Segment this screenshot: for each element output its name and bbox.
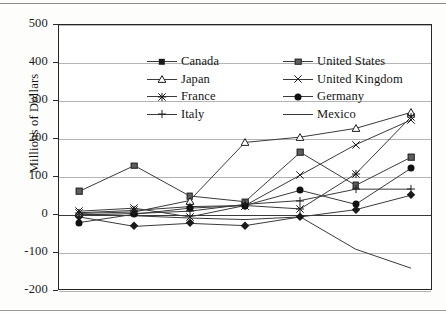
data-point-canada-1985 <box>185 219 194 228</box>
data-point-france-1995 <box>296 204 305 213</box>
data-point-united-states-2002 <box>408 154 415 161</box>
data-point-italy-1980 <box>130 209 139 218</box>
data-point-france-1990 <box>241 201 250 210</box>
data-point-italy-2002 <box>407 185 416 194</box>
legend-label: United Kingdom <box>317 72 403 87</box>
data-point-canada-2002 <box>406 191 415 200</box>
data-point-italy-1995 <box>296 196 305 205</box>
y-tick--200 <box>53 290 58 291</box>
data-point-france-1985 <box>185 202 194 211</box>
legend-label: Mexico <box>317 107 356 122</box>
scan-rule-top <box>0 3 446 4</box>
data-point-germany-1970 <box>76 219 83 226</box>
data-point-united-states-1985 <box>186 193 193 200</box>
legend-label: United States <box>317 54 385 69</box>
data-point-japan-1970 <box>75 209 84 217</box>
data-point-italy-1970 <box>75 211 84 220</box>
data-point-united-states-1995 <box>297 149 304 156</box>
data-point-united-kingdom-2002 <box>407 116 416 125</box>
data-point-united-kingdom-1990 <box>241 201 250 210</box>
data-point-canada-1995 <box>296 212 305 221</box>
data-point-france-2000 <box>351 169 360 178</box>
legend-label: Japan <box>181 72 210 87</box>
data-point-united-kingdom-2000 <box>351 140 360 149</box>
data-point-japan-1995 <box>296 133 305 141</box>
data-point-canada-1990 <box>240 221 249 230</box>
y-tick-label--100: -100 <box>14 244 48 259</box>
data-point-germany-2000 <box>352 201 359 208</box>
data-point-canada-1970 <box>74 212 83 221</box>
gridline--200 <box>59 291 431 292</box>
legend-label: Germany <box>317 89 364 104</box>
data-point-italy-1990 <box>241 200 250 209</box>
chart-page: Millions of Dollars 5004003002001000-100… <box>0 0 446 313</box>
legend-label: Canada <box>181 54 219 69</box>
data-point-france-2002 <box>407 112 416 121</box>
data-point-japan-1980 <box>130 208 139 216</box>
data-point-germany-2002 <box>408 165 415 172</box>
legend-key-united-kingdom <box>283 73 313 85</box>
data-point-united-kingdom-1980 <box>130 204 139 213</box>
y-tick-label-200: 200 <box>14 130 48 145</box>
data-point-france-1970 <box>75 208 84 217</box>
y-tick-label-400: 400 <box>14 54 48 69</box>
legend-key-france <box>147 91 177 103</box>
data-point-united-states-1980 <box>131 162 138 169</box>
data-point-italy-2000 <box>351 185 360 194</box>
data-point-japan-1985 <box>185 197 194 205</box>
data-point-japan-2002 <box>407 108 416 116</box>
data-point-united-kingdom-1970 <box>75 207 84 216</box>
legend-item-germany[interactable]: Germany <box>283 89 399 104</box>
y-tick-label--200: -200 <box>14 282 48 297</box>
data-point-canada-2000 <box>351 205 360 214</box>
data-point-united-states-2000 <box>352 182 359 189</box>
data-point-germany-1985 <box>186 205 193 212</box>
data-point-japan-1990 <box>241 138 250 146</box>
legend-key-germany <box>283 91 313 103</box>
legend-key-japan <box>147 73 177 85</box>
data-point-united-states-1970 <box>76 188 83 195</box>
legend-key-canada <box>147 56 177 68</box>
data-point-united-kingdom-1995 <box>296 171 305 180</box>
data-point-germany-1990 <box>242 202 249 209</box>
data-point-canada-1980 <box>130 222 139 231</box>
legend-item-france[interactable]: France <box>147 89 283 104</box>
y-tick-label-0: 0 <box>14 206 48 221</box>
scan-rule-bottom <box>0 310 446 311</box>
data-point-italy-1985 <box>185 207 194 216</box>
plot-area: CanadaUnited StatesJapanUnited KingdomFr… <box>58 24 432 290</box>
data-point-united-kingdom-1985 <box>185 212 194 221</box>
legend-item-italy[interactable]: Italy <box>147 107 283 122</box>
legend-key-united-states <box>283 56 313 68</box>
y-tick-label-500: 500 <box>14 16 48 31</box>
y-tick-label-100: 100 <box>14 168 48 183</box>
legend-label: Italy <box>181 107 204 122</box>
legend-item-canada[interactable]: Canada <box>147 54 283 69</box>
data-point-united-states-1990 <box>242 198 249 205</box>
legend-item-united-states[interactable]: United States <box>283 54 399 69</box>
data-point-france-1980 <box>130 206 139 215</box>
legend-item-mexico[interactable]: Mexico <box>283 107 399 122</box>
data-point-germany-1995 <box>297 187 304 194</box>
legend-item-japan[interactable]: Japan <box>147 72 283 87</box>
legend-label: France <box>181 89 216 104</box>
legend-key-italy <box>147 108 177 120</box>
data-point-japan-2000 <box>351 124 360 132</box>
legend-item-united-kingdom[interactable]: United Kingdom <box>283 72 399 87</box>
y-tick-label-300: 300 <box>14 92 48 107</box>
legend-key-mexico <box>283 108 313 120</box>
chart-legend: CanadaUnited StatesJapanUnited KingdomFr… <box>147 53 399 123</box>
data-point-germany-1980 <box>131 211 138 218</box>
